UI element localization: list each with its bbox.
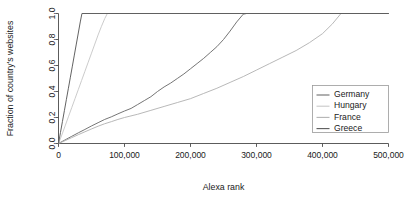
- x-tick-label: 100,000: [109, 150, 140, 160]
- legend-label-hungary: Hungary: [334, 100, 367, 110]
- x-tick-label: 300,000: [241, 150, 272, 160]
- x-tick-label: 500,000: [373, 150, 404, 160]
- y-tick-label: 0.8: [47, 33, 57, 45]
- legend-label-greece: Greece: [334, 123, 362, 133]
- y-tick-label: 1.0: [47, 7, 57, 19]
- x-tick-label: 200,000: [175, 150, 206, 160]
- y-tick-label: 0.2: [47, 111, 57, 123]
- x-tick-label: 0: [56, 150, 61, 160]
- y-axis-title: Fraction of country's websites: [5, 20, 15, 136]
- x-axis-title: Alexa rank: [203, 182, 245, 192]
- chart-figure: 0.00.20.40.60.81.00100,000200,000300,000…: [0, 0, 412, 201]
- cdf-line-chart: 0.00.20.40.60.81.00100,000200,000300,000…: [0, 0, 412, 201]
- x-tick-label: 400,000: [307, 150, 338, 160]
- legend-label-france: France: [334, 112, 361, 122]
- y-tick-label: 0.4: [47, 85, 57, 97]
- legend-label-germany: Germany: [334, 89, 370, 99]
- y-tick-label: 0.6: [47, 59, 57, 71]
- y-tick-label: 0.0: [47, 137, 57, 149]
